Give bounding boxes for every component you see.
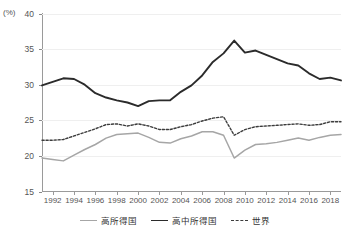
legend-label-0: 高所得国 [101,214,137,226]
chart-container: (%) 152025303540 19921994199619982000200… [0,0,349,231]
legend-item-1[interactable]: 高中所得国 [151,214,217,226]
legend-swatch-icon-1 [151,217,168,224]
legend-swatch-icon-2 [231,217,248,224]
legend-label-1: 高中所得国 [172,214,217,226]
plot-lines [0,0,349,231]
legend-label-2: 世界 [252,214,270,226]
series-line-0 [42,132,341,161]
legend-item-0[interactable]: 高所得国 [80,214,137,226]
legend-swatch-icon-0 [80,217,97,224]
series-line-1 [42,41,341,107]
legend-item-2[interactable]: 世界 [231,214,270,226]
chart-legend: 高所得国高中所得国世界 [0,214,349,226]
